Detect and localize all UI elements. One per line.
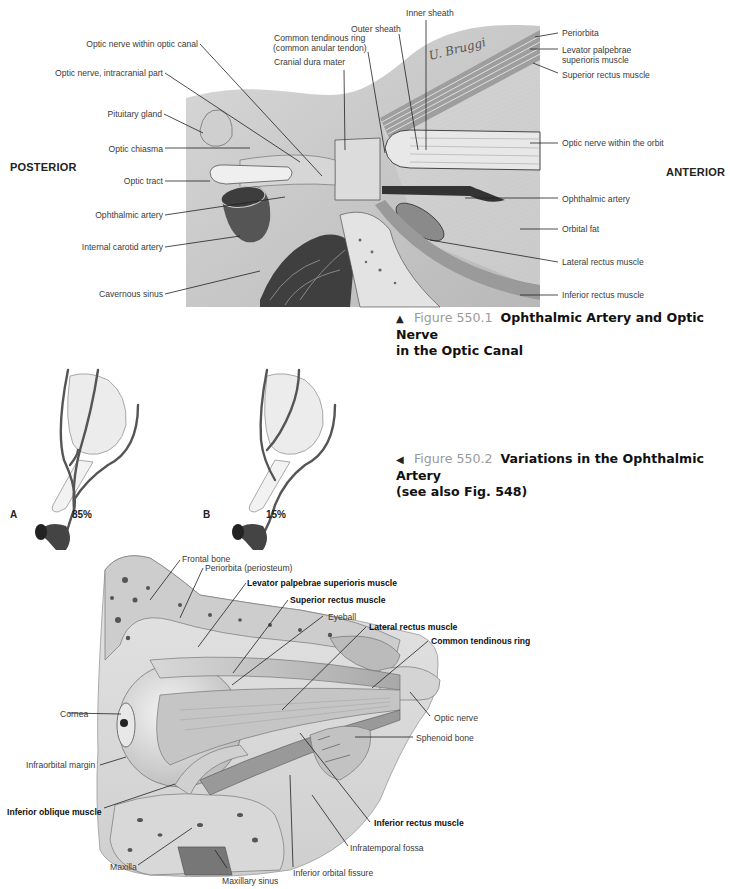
label-levator-palpebrae: Levator palpebrae superioris muscle [247, 578, 397, 588]
label-infratemporal-fossa: Infratemporal fossa [350, 843, 424, 853]
caption-left-arrow-icon: ◀ [396, 452, 410, 468]
figure-number: Figure 550.1 [414, 310, 493, 325]
label-optic-nerve-within-optic-canal: Optic nerve within optic canal [86, 39, 198, 49]
label-levator-line1: Levator palpebrae [562, 45, 631, 55]
label-periorbita: Periorbita [562, 28, 599, 38]
label-optic-tract: Optic tract [124, 176, 163, 186]
label-inferior-orbital-fissure: Inferior orbital fissure [293, 868, 373, 878]
label-levator-line2: superioris muscle [562, 55, 629, 65]
label-inferior-rectus: Inferior rectus muscle [374, 818, 464, 828]
posterior-label: POSTERIOR [10, 161, 77, 173]
label-maxillary-sinus: Maxillary sinus [222, 876, 278, 886]
label-cavernous-sinus: Cavernous sinus [99, 289, 163, 299]
label-inferior-rectus: Inferior rectus muscle [562, 290, 644, 300]
label-common-tendinous-ring: Common tendinous ring [274, 33, 365, 43]
variant-a-percent: 85% [72, 509, 92, 520]
figure-550-1-caption: ▲ Figure 550.1 Ophthalmic Artery and Opt… [396, 310, 726, 359]
label-sphenoid-bone: Sphenoid bone [416, 733, 474, 743]
label-orbital-fat: Orbital fat [562, 224, 599, 234]
label-ophthalmic-artery-left: Ophthalmic artery [95, 210, 163, 220]
figure-title-cont: in the Optic Canal [396, 343, 726, 359]
figure-title-cont: (see also Fig. 548) [396, 484, 726, 500]
label-inferior-oblique: Inferior oblique muscle [7, 807, 102, 817]
label-cranial-dura-mater: Cranial dura mater [274, 57, 345, 67]
label-cornea: Cornea [60, 709, 88, 719]
label-common-anular-tendon: (common anular tendon) [273, 43, 367, 53]
label-common-tendinous-ring: Common tendinous ring [431, 636, 530, 646]
label-ophthalmic-artery-right: Ophthalmic artery [562, 194, 630, 204]
label-periorbita-periosteum: Periorbita (periosteum) [205, 563, 292, 573]
label-optic-nerve-within-orbit: Optic nerve within the orbit [562, 138, 664, 148]
label-lateral-rectus: Lateral rectus muscle [369, 622, 457, 632]
label-infraorbital-margin: Infraorbital margin [26, 760, 95, 770]
label-optic-chiasma: Optic chiasma [109, 144, 163, 154]
label-lateral-rectus: Lateral rectus muscle [562, 257, 644, 267]
variant-a-letter: A [10, 509, 17, 520]
label-pituitary-gland: Pituitary gland [108, 109, 162, 119]
label-superior-rectus: Superior rectus muscle [562, 70, 650, 80]
anterior-label: ANTERIOR [666, 166, 725, 178]
figure-550-2-caption: ◀ Figure 550.2 Variations in the Ophthal… [396, 451, 726, 500]
label-maxilla: Maxilla [110, 862, 137, 872]
caption-up-arrow-icon: ▲ [396, 311, 410, 327]
label-optic-nerve-intracranial: Optic nerve, intracranial part [55, 68, 163, 78]
label-inner-sheath: Inner sheath [406, 8, 454, 18]
label-superior-rectus: Superior rectus muscle [290, 595, 386, 605]
figure-number: Figure 550.2 [414, 451, 493, 466]
variant-b-percent: 15% [266, 509, 286, 520]
label-internal-carotid-artery: Internal carotid artery [82, 242, 163, 252]
variant-b-letter: B [203, 509, 210, 520]
label-eyeball: Eyeball [328, 612, 356, 622]
label-optic-nerve: Optic nerve [434, 713, 478, 723]
